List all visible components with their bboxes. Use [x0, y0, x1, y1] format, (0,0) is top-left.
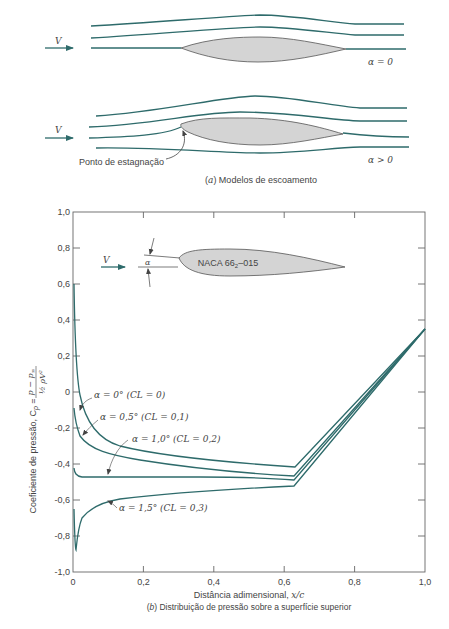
svg-text:½ ρV²: ½ ρV²	[38, 370, 47, 394]
streamline	[343, 133, 409, 137]
svg-text:-0,4: -0,4	[54, 459, 70, 469]
annotation-alpha-1.0: α = 1,0° (CL = 0,2)	[132, 434, 221, 444]
streamline	[91, 27, 404, 38]
svg-text:0,6: 0,6	[278, 577, 291, 587]
airfoil-inset: V α NACA 662–015	[101, 238, 345, 287]
svg-text:0,2: 0,2	[57, 351, 70, 361]
curve-alpha-0.5	[74, 329, 425, 476]
airfoil-zero-alpha	[181, 37, 346, 62]
caption-a: (a) Modelos de escoamento	[205, 175, 317, 185]
svg-text:1,0: 1,0	[419, 577, 432, 587]
svg-text:p − p∞: p − p∞	[26, 368, 36, 395]
svg-text:0: 0	[70, 577, 75, 587]
airfoil-label: NACA 662–015	[198, 258, 258, 269]
y-tick-labels: 1,0 0,8 0,6 0,4 0,2 0 -0,2 -0,4 -0,6 -0,…	[54, 207, 70, 577]
curve-alpha-0	[74, 284, 425, 467]
svg-text:-0,6: -0,6	[54, 495, 70, 505]
annotation-alpha-0: α = 0° (CL = 0)	[94, 390, 166, 400]
svg-text:0,2: 0,2	[137, 577, 150, 587]
alpha-arc-arrow	[150, 238, 154, 254]
streamline	[91, 15, 404, 26]
svg-text:-0,2: -0,2	[54, 423, 70, 433]
svg-text:1,0: 1,0	[57, 207, 70, 217]
alpha-positive-label: α > 0	[368, 155, 393, 165]
svg-text:0,4: 0,4	[57, 315, 70, 325]
x-tick-labels: 0 0,2 0,4 0,6 0,8 1,0	[70, 577, 431, 587]
svg-text:0: 0	[65, 387, 70, 397]
streamline	[89, 127, 181, 138]
x-axis-label: Distância adimensional, x/c	[194, 590, 305, 600]
pressure-chart: 1,0 0,8 0,6 0,4 0,2 0 -0,2 -0,4 -0,6 -0,…	[26, 207, 431, 612]
caption-b: (b) Distribuição de pressão sobre a supe…	[147, 602, 352, 612]
velocity-label: V	[55, 36, 63, 46]
alpha-zero-label: α = 0	[368, 57, 393, 67]
y-axis-label: Coeficiente de pressão, Cp = p − p∞ ½ ρV…	[26, 366, 47, 514]
svg-text:0,6: 0,6	[57, 279, 70, 289]
airfoil-positive-alpha	[181, 118, 343, 145]
annotation-alpha-0.5: α = 0,5° (CL = 0,1)	[100, 412, 189, 422]
svg-text:0,4: 0,4	[208, 577, 221, 587]
flow-patterns-panel: V α = 0 V α > 0 Ponto de estagnação (a) …	[45, 15, 409, 185]
figure: V α = 0 V α > 0 Ponto de estagnação (a) …	[0, 0, 449, 629]
streamline	[96, 96, 407, 116]
stagnation-label: Ponto de estagnação	[79, 157, 164, 167]
velocity-label: V	[55, 125, 63, 135]
alpha-arc-arrow	[148, 269, 150, 287]
svg-text:-0,8: -0,8	[54, 531, 70, 541]
svg-text:-1,0: -1,0	[54, 567, 70, 577]
stagnation-pointer	[166, 131, 184, 159]
svg-text:0,8: 0,8	[348, 577, 361, 587]
velocity-label: V	[103, 255, 111, 265]
annotation-alpha-1.5: α = 1,5° (CL = 0,3)	[119, 503, 208, 513]
svg-text:0,8: 0,8	[57, 243, 70, 253]
svg-text:Coeficiente de pressão, Cp =: Coeficiente de pressão, Cp =	[28, 398, 40, 513]
alpha-label: α	[145, 258, 151, 267]
streamline	[96, 147, 409, 153]
curve-alpha-1.5	[74, 329, 425, 550]
